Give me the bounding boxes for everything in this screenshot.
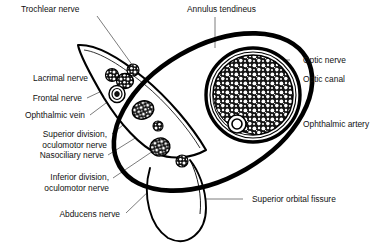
ophthalmic-vein-fascicle <box>109 86 125 103</box>
label-ophthalmic-artery: Ophthalmic artery <box>303 119 369 130</box>
label-trochlear-nerve: Trochlear nerve <box>21 4 79 15</box>
label-inferior-division-line1: Inferior division, <box>2 172 109 183</box>
label-ophthalmic-vein: Ophthalmic vein <box>2 110 85 121</box>
label-superior-division-line2: oculomotor nerve <box>2 140 107 151</box>
nasociliary-nerve-fascicle <box>153 121 163 131</box>
label-optic-canal: Optic canal <box>303 74 345 85</box>
label-lacrimal-nerve: Lacrimal nerve <box>4 73 88 84</box>
label-superior-division-line1: Superior division, <box>2 129 107 140</box>
label-inferior-division-line2: oculomotor nerve <box>2 183 109 194</box>
label-nasociliary-nerve: Nasociliary nerve <box>2 150 104 161</box>
figure-canvas: Trochlear nerve Annulus tendineus Optic … <box>0 0 388 249</box>
abducens-nerve-fascicle <box>176 155 188 167</box>
label-optic-nerve: Optic nerve <box>303 55 346 66</box>
label-abducens-nerve: Abducens nerve <box>14 209 120 220</box>
label-inferior-division-oculomotor: Inferior division, oculomotor nerve <box>2 172 109 193</box>
label-annulus-tendineus: Annulus tendineus <box>187 4 256 15</box>
inferior-orbital-lobe <box>147 160 206 241</box>
label-superior-division-oculomotor: Superior division, oculomotor nerve <box>2 129 107 150</box>
label-frontal-nerve: Frontal nerve <box>4 93 82 104</box>
ophthalmic-artery-lumen <box>232 119 242 129</box>
label-superior-orbital-fissure: Superior orbital fissure <box>252 194 336 205</box>
